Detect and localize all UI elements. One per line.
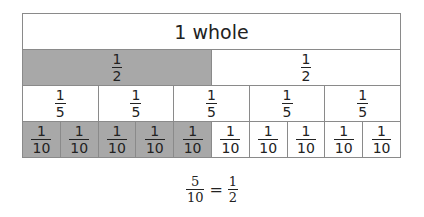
denominator: 5 <box>130 103 141 119</box>
whole-label: 1 whole <box>174 21 248 43</box>
tenth-cell: 110 <box>249 121 288 158</box>
fifth-cell: 15 <box>249 85 326 122</box>
fraction-label: 110 <box>258 124 278 155</box>
fraction-label: 15 <box>130 88 141 119</box>
denominator: 5 <box>55 103 66 119</box>
fraction-label: 15 <box>357 88 368 119</box>
denominator: 10 <box>107 139 127 155</box>
fraction-wall: 1 whole 1212 1515151515 1101101101101101… <box>22 13 401 158</box>
row-tenths: 110110110110110110110110110110 <box>22 122 401 158</box>
whole-cell: 1 whole <box>22 13 401 50</box>
denominator: 10 <box>258 139 278 155</box>
denominator: 10 <box>220 139 240 155</box>
half-cell: 12 <box>211 49 401 86</box>
fraction-label: 12 <box>112 52 123 83</box>
denominator: 2 <box>228 189 238 204</box>
fraction-label: 110 <box>145 124 165 155</box>
numerator: 1 <box>112 52 123 67</box>
row-whole: 1 whole <box>22 13 401 50</box>
denominator: 10 <box>31 139 51 155</box>
equation: 5 10 = 1 2 <box>0 175 424 204</box>
fraction-label: 110 <box>334 124 354 155</box>
numerator: 1 <box>376 124 387 139</box>
denominator: 10 <box>145 139 165 155</box>
numerator: 5 <box>190 175 200 189</box>
fraction-label: 15 <box>55 88 66 119</box>
fifth-cell: 15 <box>324 85 401 122</box>
fraction-label: 110 <box>296 124 316 155</box>
denominator: 2 <box>112 67 123 83</box>
denominator: 2 <box>301 67 312 83</box>
denominator: 10 <box>372 139 392 155</box>
numerator: 1 <box>301 124 312 139</box>
numerator: 1 <box>55 88 66 103</box>
equation-right-fraction: 1 2 <box>228 175 238 204</box>
fraction-label: 110 <box>183 124 203 155</box>
denominator: 5 <box>206 103 217 119</box>
fifth-cell: 15 <box>173 85 250 122</box>
half-cell: 12 <box>22 49 212 86</box>
numerator: 1 <box>263 124 274 139</box>
fifth-cell: 15 <box>22 85 99 122</box>
denominator: 10 <box>69 139 89 155</box>
numerator: 1 <box>130 88 141 103</box>
fraction-label: 110 <box>69 124 89 155</box>
fifth-cell: 15 <box>98 85 175 122</box>
fraction-label: 110 <box>220 124 240 155</box>
denominator: 5 <box>282 103 293 119</box>
tenth-cell: 110 <box>287 121 326 158</box>
numerator: 1 <box>149 124 160 139</box>
fraction-label: 110 <box>107 124 127 155</box>
tenth-cell: 110 <box>60 121 99 158</box>
denominator: 10 <box>186 189 205 204</box>
fraction-label: 15 <box>206 88 217 119</box>
fraction-label: 110 <box>372 124 392 155</box>
tenth-cell: 110 <box>211 121 250 158</box>
denominator: 5 <box>357 103 368 119</box>
numerator: 1 <box>112 124 123 139</box>
numerator: 1 <box>225 124 236 139</box>
numerator: 1 <box>301 52 312 67</box>
numerator: 1 <box>206 88 217 103</box>
numerator: 1 <box>36 124 47 139</box>
tenth-cell: 110 <box>98 121 137 158</box>
denominator: 10 <box>334 139 354 155</box>
numerator: 1 <box>357 88 368 103</box>
numerator: 1 <box>282 88 293 103</box>
equals-sign: = <box>209 180 222 199</box>
tenth-cell: 110 <box>135 121 174 158</box>
denominator: 10 <box>183 139 203 155</box>
denominator: 10 <box>296 139 316 155</box>
numerator: 1 <box>228 175 238 189</box>
fraction-label: 15 <box>282 88 293 119</box>
tenth-cell: 110 <box>22 121 61 158</box>
row-fifths: 1515151515 <box>22 86 401 122</box>
numerator: 1 <box>338 124 349 139</box>
tenth-cell: 110 <box>362 121 401 158</box>
fraction-label: 12 <box>301 52 312 83</box>
tenth-cell: 110 <box>173 121 212 158</box>
numerator: 1 <box>187 124 198 139</box>
numerator: 1 <box>74 124 85 139</box>
tenth-cell: 110 <box>324 121 363 158</box>
row-halves: 1212 <box>22 50 401 86</box>
fraction-label: 110 <box>31 124 51 155</box>
equation-left-fraction: 5 10 <box>186 175 205 204</box>
